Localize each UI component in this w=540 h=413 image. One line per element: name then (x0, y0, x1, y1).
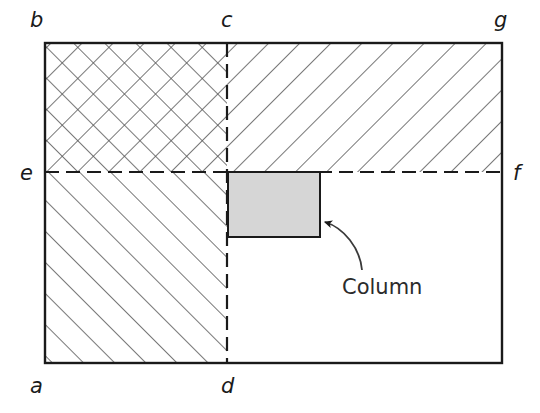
column-callout-label: Column (342, 275, 422, 299)
vertex-label-g: g (494, 8, 507, 32)
diagram-canvas: b c g e f a d Column (0, 0, 540, 413)
load-area-diagram: b c g e f a d Column (0, 0, 540, 413)
region-hatch-upper-right (227, 43, 502, 172)
vertex-label-e: e (20, 161, 33, 185)
region-hatch-lower-left (45, 172, 227, 363)
region-crosshatch-upper-left (45, 43, 227, 172)
column-rectangle (228, 172, 320, 237)
vertex-label-c: c (221, 8, 233, 32)
vertex-label-b: b (30, 8, 43, 32)
vertex-label-d: d (221, 374, 235, 398)
vertex-label-a: a (30, 374, 43, 398)
